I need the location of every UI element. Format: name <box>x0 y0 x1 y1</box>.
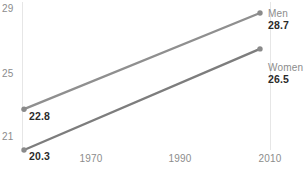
data-point-women-end <box>257 46 262 51</box>
series-label-women: Women <box>268 62 303 73</box>
data-point-men-start <box>21 107 26 112</box>
series-line-women <box>24 49 260 150</box>
value-label-women-start: 20.3 <box>29 151 50 162</box>
value-label-men-start: 22.8 <box>29 111 50 122</box>
value-label-men-end: 28.7 <box>268 20 289 31</box>
value-label-women-end: 26.5 <box>268 74 289 85</box>
series-label-men: Men <box>268 8 288 19</box>
series-line-men <box>24 13 260 109</box>
slope-chart: 29 25 21 1970 1990 2010 22.8 20.3 Men 28… <box>0 0 306 179</box>
data-point-men-end <box>257 10 262 15</box>
data-point-women-start <box>21 147 26 152</box>
